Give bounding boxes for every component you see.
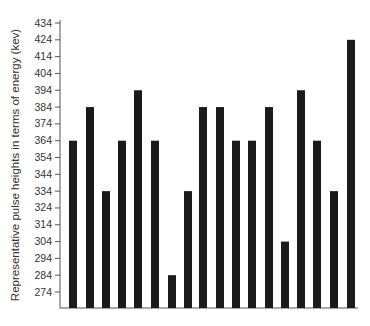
y-tick-label: 354 (34, 151, 52, 163)
bar (347, 40, 355, 308)
bar (330, 191, 338, 308)
y-tick-label: 274 (34, 286, 52, 298)
bar (134, 90, 142, 308)
y-tick-label: 404 (34, 67, 52, 79)
y-tick-label: 384 (34, 101, 52, 113)
y-tick-label: 434 (34, 17, 52, 29)
bar (199, 107, 207, 308)
bar (102, 191, 110, 308)
y-tick-label: 304 (34, 235, 52, 247)
bar (184, 191, 192, 308)
y-tick-label: 414 (34, 50, 52, 62)
y-tick-label: 344 (34, 168, 52, 180)
bar (69, 141, 77, 308)
bar (216, 107, 224, 308)
y-tick-label: 324 (34, 201, 52, 213)
y-tick-label: 374 (34, 117, 52, 129)
bar (118, 141, 126, 308)
y-tick-label: 394 (34, 84, 52, 96)
y-tick-label: 284 (34, 269, 52, 281)
y-tick-label: 424 (34, 33, 52, 45)
bar (168, 275, 176, 308)
bar (297, 90, 305, 308)
bar (151, 141, 159, 308)
bar (248, 141, 256, 308)
y-tick-label: 334 (34, 185, 52, 197)
bar (281, 242, 289, 308)
bar (265, 107, 273, 308)
bar-chart: 2742842943043143243343443543643743843944… (0, 0, 370, 326)
y-tick-label: 294 (34, 252, 52, 264)
y-tick-label: 364 (34, 134, 52, 146)
bar (313, 141, 321, 308)
y-tick-label: 314 (34, 218, 52, 230)
bar (232, 141, 240, 308)
bar (86, 107, 94, 308)
